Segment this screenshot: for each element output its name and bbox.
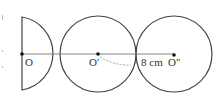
measurement-label: 8 cm: [141, 56, 163, 68]
edge-mark: [2, 66, 3, 68]
edge-mark: [2, 50, 3, 52]
label-o: O: [25, 56, 33, 68]
label-o-double-prime: O″: [168, 56, 181, 68]
semicircle-o: [22, 17, 53, 90]
point-o: [20, 52, 24, 56]
label-o-prime: O′: [89, 56, 99, 68]
edge-mark: [2, 15, 3, 20]
geometry-diagram: O O′ O″ 8 cm: [0, 0, 223, 98]
radius-arc: [100, 57, 131, 65]
